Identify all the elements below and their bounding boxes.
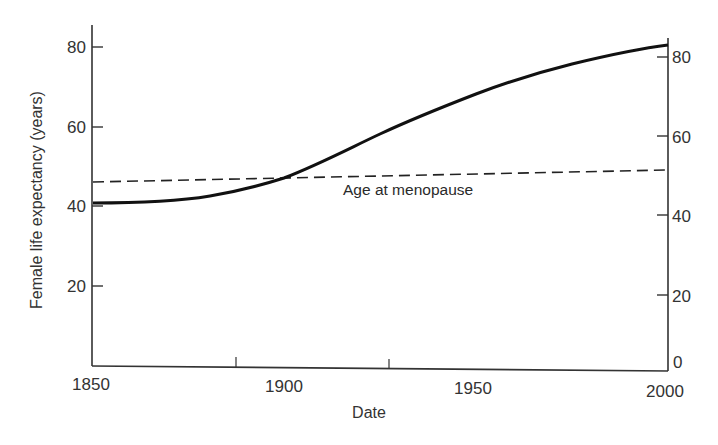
menopause-annotation: Age at menopause <box>343 181 473 198</box>
x-label-1850: 1850 <box>72 375 110 394</box>
x-label-1900: 1900 <box>265 377 303 396</box>
y-left-label-40: 40 <box>67 197 86 216</box>
x-label-1950: 1950 <box>454 379 492 398</box>
life-expectancy-curve <box>93 45 668 203</box>
x-axis-title: Date <box>352 404 386 421</box>
left-y-ticks <box>92 47 103 286</box>
chart-canvas: 80 60 40 20 80 60 40 20 0 1850 1900 1950… <box>0 0 718 445</box>
y-right-label-40: 40 <box>672 207 691 226</box>
y-right-label-80: 80 <box>672 48 691 67</box>
y-right-label-20: 20 <box>672 287 691 306</box>
y-right-label-0: 0 <box>673 353 682 372</box>
y-axis-title: Female life expectancy (years) <box>28 91 45 309</box>
y-right-label-60: 60 <box>672 128 691 147</box>
x-label-2000: 2000 <box>646 382 684 401</box>
x-axis <box>92 366 668 371</box>
y-left-label-80: 80 <box>67 38 86 57</box>
y-left-label-60: 60 <box>67 118 86 137</box>
y-left-label-20: 20 <box>67 277 86 296</box>
right-y-ticks <box>657 57 668 295</box>
